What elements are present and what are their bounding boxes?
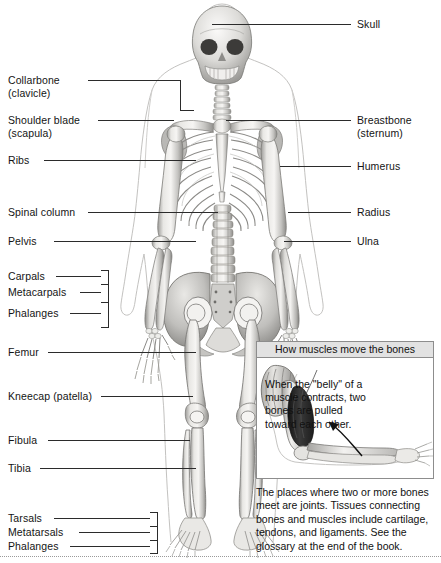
bottom-dotted-divider: [0, 556, 441, 557]
leader-collarbone-2: [180, 110, 194, 111]
label-tibia: Tibia: [8, 462, 31, 475]
leader-breastbone: [226, 120, 351, 121]
leader-kneecap: [101, 396, 193, 397]
leader-phalanges-foot: [70, 546, 150, 547]
label-breastbone-line2: (sternum): [357, 127, 412, 140]
inset-panel-title: How muscles move the bones: [257, 342, 433, 358]
left-hand-bones: [135, 328, 175, 384]
inset-caption-text: When the "belly" of a muscle contracts, …: [265, 378, 369, 431]
label-ulna: Ulna: [357, 235, 379, 248]
left-leg-bones: [166, 304, 211, 558]
label-radius-line1: Radius: [357, 206, 390, 218]
leader-skull: [212, 24, 351, 25]
label-carpals-line1: Carpals: [8, 270, 45, 282]
label-collarbone: Collarbone (clavicle): [8, 74, 60, 99]
label-breastbone-line1: Breastbone: [357, 114, 412, 126]
label-collarbone-line2: (clavicle): [8, 87, 60, 100]
label-shoulder-blade-line2: (scapula): [8, 127, 80, 140]
label-ulna-line1: Ulna: [357, 235, 379, 247]
leader-ribs: [44, 160, 196, 161]
label-shoulder-blade: Shoulder blade (scapula): [8, 114, 80, 139]
leader-tibia: [40, 468, 196, 469]
leader-metatarsals: [79, 532, 150, 533]
label-phalanges-hand-line1: Phalanges: [8, 307, 59, 319]
label-phalanges-hand: Phalanges: [8, 307, 59, 320]
leader-spinal-column: [88, 212, 218, 213]
bracket-foot-div1: [150, 526, 157, 527]
label-skull-line1: Skull: [357, 18, 380, 30]
leader-carpals: [56, 276, 101, 277]
label-phalanges-foot: Phalanges: [8, 540, 59, 553]
label-spinal-column-line1: Spinal column: [8, 206, 75, 218]
label-metatarsals: Metatarsals: [8, 526, 63, 539]
label-tarsals-line1: Tarsals: [8, 512, 42, 524]
label-breastbone: Breastbone (sternum): [357, 114, 412, 139]
label-carpals: Carpals: [8, 270, 45, 283]
leader-fibula: [48, 440, 190, 441]
leader-humerus: [280, 166, 351, 167]
bracket-hand-div1: [101, 284, 108, 285]
leader-pelvis: [54, 241, 196, 242]
label-pelvis: Pelvis: [8, 235, 37, 248]
label-spinal-column: Spinal column: [8, 206, 75, 219]
leader-collarbone-v: [180, 80, 181, 110]
bracket-foot-bones: [150, 512, 158, 554]
label-tarsals: Tarsals: [8, 512, 42, 525]
leader-shoulder-blade: [98, 120, 174, 121]
label-metacarpals-line1: Metacarpals: [8, 286, 66, 298]
label-metacarpals: Metacarpals: [8, 286, 66, 299]
bracket-hand-div2: [101, 302, 108, 303]
bracket-hand-bones: [101, 270, 109, 328]
leader-radius: [288, 212, 351, 213]
label-femur-line1: Femur: [8, 346, 39, 358]
label-humerus: Humerus: [357, 160, 400, 173]
label-tibia-line1: Tibia: [8, 462, 31, 474]
label-metatarsals-line1: Metatarsals: [8, 526, 63, 538]
label-skull: Skull: [357, 18, 380, 31]
label-collarbone-line1: Collarbone: [8, 74, 60, 86]
label-shoulder-blade-line1: Shoulder blade: [8, 114, 80, 126]
left-foot-bones: [166, 518, 211, 558]
label-ribs-line1: Ribs: [8, 154, 29, 166]
inset-panel-body: When the "belly" of a muscle contracts, …: [257, 358, 433, 479]
label-fibula-line1: Fibula: [8, 434, 37, 446]
breastbone-sternum: [216, 134, 228, 202]
bracket-foot-div2: [150, 540, 157, 541]
leader-femur: [48, 352, 196, 353]
cervical-spine: [213, 85, 231, 120]
label-pelvis-line1: Pelvis: [8, 235, 37, 247]
bottom-note-text: The places where two or more bones meet …: [256, 486, 438, 553]
label-fibula: Fibula: [8, 434, 37, 447]
inset-panel: How muscles move the bones: [256, 341, 434, 479]
leader-phalanges-hand: [70, 313, 101, 314]
figure-canvas: Collarbone (clavicle) Shoulder blade (sc…: [0, 0, 441, 563]
label-humerus-line1: Humerus: [357, 160, 400, 172]
label-kneecap-line1: Kneecap (patella): [8, 390, 92, 402]
skull-bone: [192, 6, 251, 84]
leader-tarsals: [54, 518, 150, 519]
leader-collarbone: [88, 80, 181, 81]
label-phalanges-foot-line1: Phalanges: [8, 540, 59, 552]
label-ribs: Ribs: [8, 154, 29, 167]
spinal-column-vertebrae: [211, 205, 235, 283]
label-radius: Radius: [357, 206, 390, 219]
label-kneecap: Kneecap (patella): [8, 390, 92, 403]
leader-metacarpals: [80, 292, 101, 293]
leader-ulna: [284, 241, 351, 242]
left-arm-bones: [135, 126, 185, 384]
label-femur: Femur: [8, 346, 39, 359]
